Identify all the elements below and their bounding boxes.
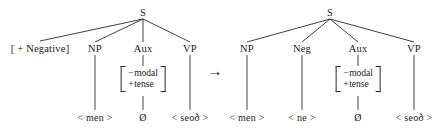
branch-right-s-to-np (247, 19, 330, 42)
right-tree-terminal-null: Ø (354, 113, 362, 123)
right-tree-aux-feature-matrix: −modal +tense (336, 66, 381, 92)
matrix-row-tense: +tense (128, 79, 158, 91)
left-tree-terminal-men: < men > (77, 113, 113, 123)
left-tree-aux-feature-matrix: −modal +tense (121, 66, 166, 92)
right-tree-terminal-ne: < ne > (288, 113, 316, 123)
right-tree-node-vp: VP (407, 44, 421, 55)
left-tree-terminal-null: Ø (139, 113, 147, 123)
left-tree-node-aux: Aux (134, 44, 153, 55)
left-tree-node-vp: VP (183, 44, 197, 55)
right-tree-node-neg: Neg (293, 44, 311, 55)
branch-left-s-to-vp (143, 19, 190, 42)
right-tree-root-s: S (327, 8, 333, 19)
right-tree-terminal-men: < men > (229, 113, 265, 123)
branch-left-s-to-np (95, 19, 143, 42)
branch-right-s-to-neg (302, 19, 330, 42)
modal-feature-name: modal (349, 68, 373, 78)
left-tree-node-np: NP (88, 44, 102, 55)
syntactic-transformation-figure: S [ + Negative] NP Aux VP −modal +tense … (0, 0, 448, 131)
left-tree-root-s: S (140, 8, 146, 19)
matrix-right-bracket (160, 66, 165, 92)
right-tree-node-np: NP (240, 44, 254, 55)
tree-branch-lines (0, 0, 448, 131)
branch-right-s-to-aux (330, 19, 358, 42)
right-tree-terminal-seoth: < seoð > (395, 113, 432, 123)
branch-right-s-to-vp (330, 19, 414, 42)
matrix-right-bracket (375, 66, 380, 92)
branch-left-s-to-negative (40, 19, 143, 41)
rightward-arrow-icon: → (208, 64, 223, 79)
tense-feature-name: tense (349, 79, 369, 89)
right-tree-node-aux: Aux (349, 44, 368, 55)
left-tree-terminal-seoth: < seoð > (171, 113, 208, 123)
tense-feature-name: tense (134, 79, 154, 89)
matrix-row-tense: +tense (343, 79, 373, 91)
matrix-rows: −modal +tense (341, 66, 376, 92)
matrix-row-modal: −modal (343, 68, 373, 80)
left-tree-side-condition-negative: [ + Negative] (11, 44, 70, 55)
matrix-rows: −modal +tense (126, 66, 161, 92)
matrix-row-modal: −modal (128, 68, 158, 80)
modal-feature-name: modal (134, 68, 158, 78)
